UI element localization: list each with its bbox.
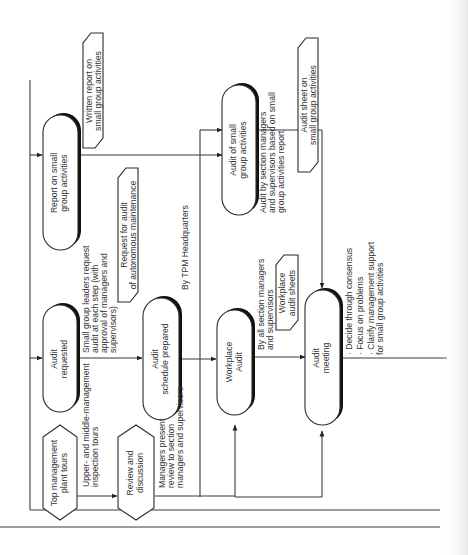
svg-text:By TPM Headquarters: By TPM Headquarters bbox=[180, 205, 190, 290]
document-label: Workplace bbox=[277, 273, 287, 314]
svg-text:for small group activities: for small group activities bbox=[375, 263, 385, 355]
node-audit-meeting: Audit meeting bbox=[305, 288, 343, 425]
node-label: meeting bbox=[321, 342, 331, 373]
document-label: of autonomous maintenance bbox=[128, 181, 138, 290]
document-request-for-audit: Request for audit of autonomous maintena… bbox=[118, 168, 138, 302]
node-workplace-audit: Workplace Audit bbox=[217, 308, 255, 415]
document-workplace-audit-sheets: Workplace audit sheets bbox=[276, 255, 298, 330]
node-label: Workplace bbox=[224, 342, 234, 383]
annotation-audit-by-section-managers: Audit by section managers and supervisor… bbox=[258, 92, 286, 213]
document-label: small group activities bbox=[93, 51, 103, 131]
node-label: Audit bbox=[234, 352, 244, 372]
svg-text:supervisors): supervisors) bbox=[108, 306, 118, 353]
page-edge-shadow bbox=[440, 0, 468, 555]
node-label: group activities bbox=[59, 154, 69, 211]
svg-text:inspection tours: inspection tours bbox=[90, 427, 100, 487]
annotation-meeting-bullets: · Decide through consensus · Focus on pr… bbox=[344, 241, 385, 355]
node-label: Audit bbox=[150, 349, 160, 369]
node-label: Top management bbox=[49, 439, 59, 506]
svg-text:and supervisors: and supervisors bbox=[265, 289, 275, 350]
document-label: small group activities bbox=[308, 65, 318, 145]
node-label: Review and bbox=[125, 450, 135, 495]
flowchart-diagram: Top management plant tours Review and di… bbox=[0, 0, 468, 555]
node-audit-of-small-group-activities: Audit of small group activities bbox=[222, 83, 259, 215]
svg-text:managers and supervisors: managers and supervisors bbox=[175, 387, 185, 488]
annotation-by-tpm-headquarters: By TPM Headquarters bbox=[180, 205, 190, 290]
node-label: schedule prepared bbox=[160, 323, 170, 394]
node-label: group activities bbox=[238, 121, 248, 178]
node-review-and-discussion: Review and discussion bbox=[118, 425, 154, 520]
document-label: audit sheets bbox=[287, 270, 297, 316]
document-audit-sheet: Audit sheet on small group activities bbox=[298, 38, 318, 172]
node-label: discussion bbox=[135, 453, 145, 493]
svg-text:· Decide through consensus: · Decide through consensus bbox=[344, 248, 354, 355]
node-label: requested bbox=[59, 340, 69, 378]
node-label: Audit bbox=[49, 349, 59, 369]
node-label: plant tours bbox=[59, 453, 69, 493]
svg-text:group activities report: group activities report bbox=[276, 130, 286, 213]
document-written-report: Written report on small group activities bbox=[83, 33, 103, 148]
svg-text:· Focus on problems: · Focus on problems bbox=[355, 277, 365, 355]
annotation-small-group-leaders: Small group leaders request audit at eac… bbox=[81, 245, 118, 353]
annotation-by-all-section-managers: By all section managers and supervisors bbox=[256, 259, 275, 350]
annotation-inspection-tours: Upper- and middle-management inspection … bbox=[81, 363, 100, 487]
node-report-on-small-group-activities: Report on small group activities bbox=[43, 113, 81, 250]
node-label: Report on small bbox=[49, 153, 59, 213]
node-label: Audit bbox=[311, 348, 321, 368]
node-audit-requested: Audit requested bbox=[43, 303, 80, 412]
node-label: Audit of small bbox=[228, 124, 238, 176]
node-top-management-plant-tours: Top management plant tours bbox=[43, 425, 77, 520]
